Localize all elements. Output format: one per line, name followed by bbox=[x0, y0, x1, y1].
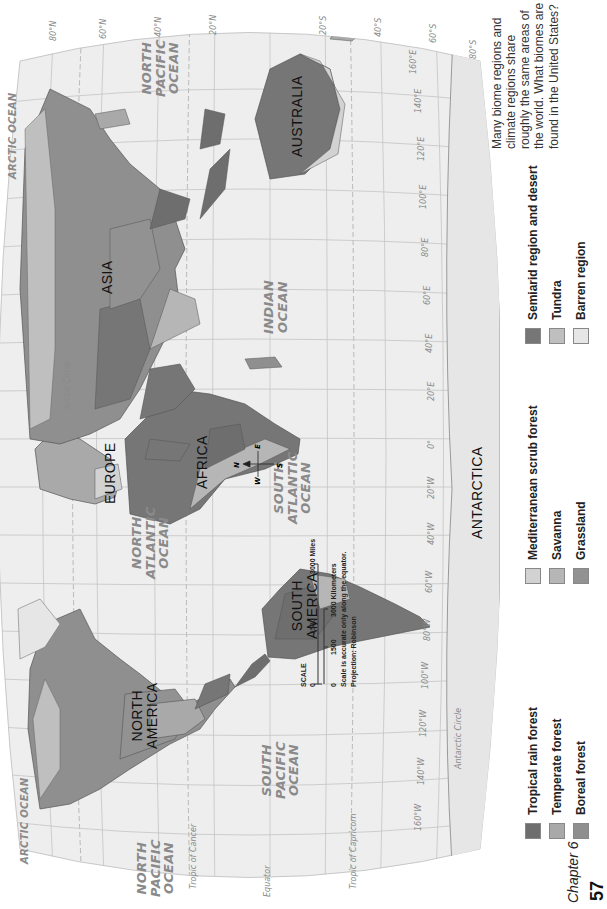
latitude-label: 20°S bbox=[320, 16, 328, 35]
page-number: 57 bbox=[588, 881, 606, 901]
ocean-label-indian: INDIAN OCEAN bbox=[262, 280, 289, 334]
projection-note: Projection: Robinson bbox=[350, 616, 357, 687]
map-caption-question: Many biome regions and climate regions s… bbox=[490, 0, 561, 149]
legend-swatch bbox=[549, 568, 565, 584]
legend-swatch bbox=[549, 328, 565, 344]
map-legend: Tropical rain forest Temperate forest Bo… bbox=[525, 119, 600, 839]
legend-swatch bbox=[525, 823, 541, 839]
world-biome-map: NORTH PACIFIC OCEAN ARCTIC OCEAN NORTH A… bbox=[0, 0, 500, 909]
legend-item-savanna: Savanna bbox=[549, 511, 565, 584]
compass-s: S bbox=[277, 463, 284, 468]
longitude-label: 60°E bbox=[424, 286, 432, 305]
legend-item-boreal-forest: Boreal forest bbox=[573, 741, 589, 839]
longitude-label: 60°W bbox=[426, 571, 434, 593]
scale-miles-1500: 1500 bbox=[309, 618, 316, 634]
label-arctic-circle: Arctic Circle bbox=[64, 361, 72, 409]
legend-label: Grassland bbox=[574, 501, 588, 560]
label-tropic-of-cancer: Tropic of Cancer bbox=[190, 824, 198, 889]
longitude-label: 100°E bbox=[420, 185, 428, 209]
scale-miles-0: 0 bbox=[309, 683, 316, 687]
scale-note: Scale is accurate only along the equator… bbox=[340, 552, 347, 687]
longitude-label: 160°E bbox=[410, 50, 418, 74]
compass-w: W bbox=[255, 477, 262, 485]
legend-label: Semiarid region and desert bbox=[526, 165, 540, 320]
longitude-label: 0° bbox=[428, 440, 436, 449]
legend-item-grassland: Grassland bbox=[573, 501, 589, 584]
continent-label-north-america: NORTH AMERICA bbox=[130, 682, 159, 749]
legend-label: Mediterranean scrub forest bbox=[526, 405, 540, 560]
ocean-label-arctic-west: ARCTIC OCEAN bbox=[20, 777, 31, 864]
legend-label: Tundra bbox=[550, 280, 564, 320]
legend-swatch bbox=[573, 823, 589, 839]
legend-item-mediterranean-scrub-forest: Mediterranean scrub forest bbox=[525, 405, 541, 584]
legend-swatch bbox=[573, 568, 589, 584]
legend-item-semiarid-desert: Semiarid region and desert bbox=[525, 165, 541, 344]
latitude-label: 40°N bbox=[155, 17, 163, 37]
longitude-label: 140°W bbox=[418, 758, 426, 785]
scale-title: SCALE bbox=[300, 663, 307, 687]
scale-km-0: 0 bbox=[330, 683, 337, 687]
longitude-label: 80°W bbox=[424, 619, 432, 641]
scale-miles-3000: 3000 Miles bbox=[309, 539, 316, 574]
continent-label-asia: ASIA bbox=[100, 260, 115, 294]
ocean-label-north-pacific-west: NORTH PACIFIC OCEAN bbox=[135, 839, 176, 897]
legend-item-temperate-forest: Temperate forest bbox=[549, 719, 565, 839]
legend-swatch bbox=[525, 328, 541, 344]
textbook-page: NORTH PACIFIC OCEAN ARCTIC OCEAN NORTH A… bbox=[0, 0, 607, 909]
legend-label: Barren region bbox=[574, 241, 588, 320]
longitude-label: 140°E bbox=[415, 89, 423, 113]
latitude-label: 20°N bbox=[210, 15, 218, 35]
ocean-label-south-pacific: SOUTH PACIFIC OCEAN bbox=[260, 741, 301, 799]
latitude-label: 80°N bbox=[50, 21, 58, 41]
longitude-label: 100°W bbox=[422, 662, 430, 689]
longitude-label: 160°W bbox=[415, 804, 423, 831]
legend-label: Savanna bbox=[550, 511, 564, 560]
longitude-label: 120°E bbox=[418, 137, 426, 161]
label-tropic-of-capricorn: Tropic of Capricorn bbox=[350, 813, 358, 889]
compass-e: E bbox=[255, 444, 262, 449]
legend-label: Boreal forest bbox=[574, 741, 588, 815]
label-equator: Equator bbox=[264, 866, 272, 897]
ocean-label-arctic-east: ARCTIC OCEAN bbox=[8, 92, 19, 179]
continent-label-europe: EUROPE bbox=[103, 442, 118, 504]
legend-swatch bbox=[525, 568, 541, 584]
legend-swatch bbox=[549, 823, 565, 839]
chapter-label: Chapter 6 bbox=[566, 842, 580, 903]
longitude-label: 20°E bbox=[428, 382, 436, 401]
legend-label: Tropical rain forest bbox=[526, 707, 540, 815]
legend-label: Temperate forest bbox=[550, 719, 564, 815]
legend-item-barren-region: Barren region bbox=[573, 241, 589, 344]
continent-label-antarctica: ANTARCTICA bbox=[470, 447, 485, 539]
legend-swatch bbox=[573, 328, 589, 344]
longitude-label: 120°W bbox=[420, 710, 428, 737]
scale-km-3000: 3000 Kilometers bbox=[330, 563, 337, 617]
longitude-label: 40°E bbox=[426, 334, 434, 353]
continent-label-australia: AUSTRALIA bbox=[290, 76, 305, 157]
ocean-label-north-atlantic: NORTH ATLANTIC OCEAN bbox=[130, 506, 171, 579]
longitude-label: 80°E bbox=[422, 238, 430, 257]
scale-km-1500: 1500 bbox=[330, 639, 337, 655]
ocean-label-north-pacific-east: NORTH PACIFIC OCEAN bbox=[140, 39, 181, 97]
legend-item-tropical-rain-forest: Tropical rain forest bbox=[525, 707, 541, 839]
latitude-label: 60°N bbox=[100, 19, 108, 39]
compass-n: N bbox=[234, 462, 241, 468]
latitude-label: 80°S bbox=[470, 40, 478, 59]
continent-label-africa: AFRICA bbox=[195, 435, 210, 489]
legend-item-tundra: Tundra bbox=[549, 280, 565, 344]
longitude-label: 20°W bbox=[428, 477, 436, 499]
latitude-label: 60°S bbox=[430, 24, 438, 43]
longitude-label: 40°W bbox=[428, 523, 436, 545]
latitude-label: 40°S bbox=[375, 18, 383, 37]
label-antarctic-circle: Antarctic Circle bbox=[455, 708, 463, 769]
